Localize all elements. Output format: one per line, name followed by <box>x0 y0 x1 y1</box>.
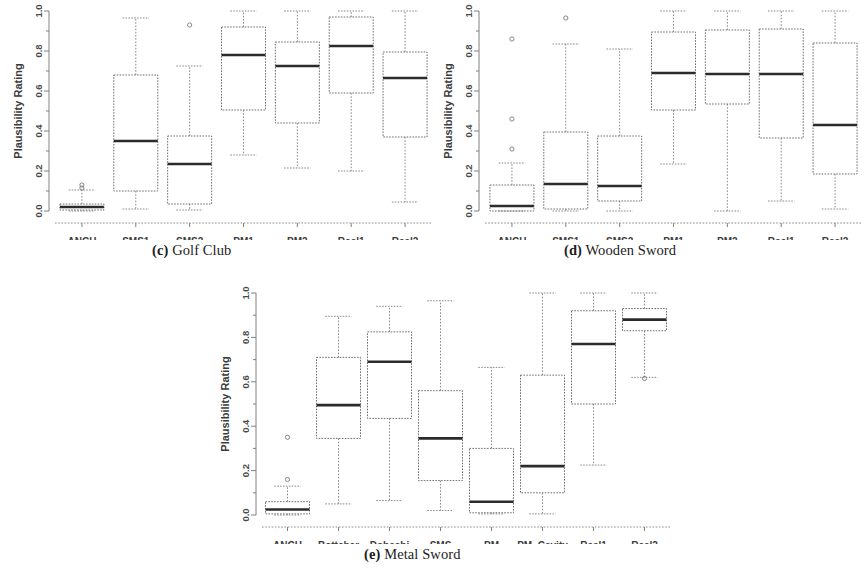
boxplot-group: Dobashi <box>368 306 412 544</box>
box-rect <box>813 43 857 174</box>
box-rect <box>419 391 463 481</box>
boxplot-group: PM2 <box>275 11 319 240</box>
panel-caption-metal-sword: (e) Metal Sword <box>364 546 461 563</box>
panel-metal-sword: 0.00.20.40.60.81.0Plausibility RatingANC… <box>200 282 700 574</box>
caption-text-e: Metal Sword <box>384 546 460 562</box>
box-rect <box>317 357 361 438</box>
x-axis-label: PM_Cavity <box>517 540 568 544</box>
caption-prefix-d: (d) <box>564 242 582 258</box>
boxplot-group: Real2 <box>383 11 427 240</box>
x-axis-label: SMS1 <box>122 236 150 240</box>
box-rect <box>572 311 616 404</box>
boxplot-group: PM <box>470 367 514 544</box>
boxplot-group: Real2 <box>813 11 857 240</box>
boxplot-group: SMS2 <box>598 49 642 240</box>
boxplot-group: Real1 <box>759 11 803 240</box>
x-axis-label: ANCH <box>67 236 96 240</box>
boxplot-figure: 0.00.20.40.60.81.0Plausibility RatingANC… <box>0 0 867 574</box>
x-axis-label: Dobashi <box>370 540 410 544</box>
box-rect <box>329 17 373 93</box>
boxplot-group: Real1 <box>329 11 373 240</box>
x-axis-label: Bottcher <box>318 540 359 544</box>
y-axis-title: Plausibility Rating <box>219 356 231 451</box>
y-tick-label: 0.8 <box>33 44 44 57</box>
y-tick-label: 0.8 <box>240 331 251 344</box>
outlier-point <box>510 117 514 121</box>
caption-text-c: Golf Club <box>172 242 231 258</box>
outlier-point <box>564 16 568 20</box>
box-rect <box>368 332 412 419</box>
box-rect <box>222 27 266 110</box>
boxplot-group: SMS2 <box>168 23 212 240</box>
x-axis-label: ANCH <box>497 236 526 240</box>
boxplot-group: Real2 <box>623 293 667 544</box>
x-axis-label: PM1 <box>663 236 684 240</box>
boxplot-group: Real1 <box>572 293 616 544</box>
plot-golf-club: 0.00.20.40.60.81.0Plausibility RatingANC… <box>0 0 437 240</box>
boxplot-group: Bottcher <box>317 316 361 544</box>
x-axis-label: PM <box>484 540 499 544</box>
box-rect <box>598 136 642 201</box>
box-rect <box>759 29 803 138</box>
panel-wooden-sword: 0.00.20.40.60.81.0Plausibility RatingANC… <box>430 0 867 268</box>
x-axis-label: Real2 <box>631 540 658 544</box>
boxplot-group: PM_Cavity <box>517 293 568 544</box>
x-axis-label: Real2 <box>392 236 419 240</box>
boxplot-group: SMS1 <box>544 16 588 240</box>
boxplot-group: PM2 <box>705 11 749 240</box>
y-tick-label: 0.4 <box>240 419 251 433</box>
panel-caption-wooden-sword: (d) Wooden Sword <box>564 242 676 259</box>
y-tick-label: 0.2 <box>240 464 251 477</box>
x-axis-label: Real1 <box>338 236 365 240</box>
y-tick-label: 0.4 <box>33 124 44 138</box>
boxplot-group: SMS <box>419 301 463 544</box>
box-rect <box>168 136 212 204</box>
caption-text-d: Wooden Sword <box>586 242 677 258</box>
y-tick-label: 1.0 <box>463 4 474 17</box>
y-tick-label: 1.0 <box>33 4 44 17</box>
box-rect <box>470 448 514 512</box>
boxplot-group: SMS1 <box>114 18 158 240</box>
boxplot-group: ANCH <box>60 183 104 240</box>
x-axis-label: PM2 <box>717 236 738 240</box>
box-rect <box>652 32 696 110</box>
y-tick-label: 0.8 <box>463 44 474 57</box>
x-axis-label: SMS1 <box>552 236 580 240</box>
caption-prefix-c: (c) <box>152 242 168 258</box>
box-rect <box>266 502 310 514</box>
outlier-point <box>80 183 84 187</box>
y-tick-label: 0.0 <box>463 204 474 217</box>
y-tick-label: 0.0 <box>33 204 44 217</box>
outlier-point <box>188 23 192 27</box>
panel-golf-club: 0.00.20.40.60.81.0Plausibility RatingANC… <box>0 0 437 268</box>
y-tick-label: 0.0 <box>240 508 251 521</box>
y-axis-title: Plausibility Rating <box>12 63 24 158</box>
box-rect <box>383 52 427 137</box>
y-tick-label: 0.6 <box>240 375 251 388</box>
x-axis-label: SMS2 <box>176 236 204 240</box>
x-axis-label: Real2 <box>822 236 849 240</box>
outlier-point <box>285 435 289 439</box>
y-tick-label: 0.4 <box>463 124 474 138</box>
x-axis-label: SMS2 <box>606 236 634 240</box>
x-axis-label: SMS <box>430 540 452 544</box>
box-rect <box>705 30 749 104</box>
box-rect <box>521 375 565 493</box>
x-axis-label: ANCH <box>273 540 302 544</box>
plot-wooden-sword: 0.00.20.40.60.81.0Plausibility RatingANC… <box>430 0 867 240</box>
caption-prefix-e: (e) <box>364 546 380 562</box>
outlier-point <box>510 147 514 151</box>
x-axis-label: PM2 <box>287 236 308 240</box>
box-rect <box>275 42 319 123</box>
outlier-point <box>285 477 289 481</box>
box-rect <box>114 75 158 191</box>
y-tick-label: 0.2 <box>33 164 44 177</box>
boxplot-group: ANCH <box>490 37 534 240</box>
outlier-point <box>510 37 514 41</box>
y-tick-label: 0.6 <box>463 84 474 97</box>
panel-caption-golf-club: (c) Golf Club <box>152 242 231 259</box>
box-rect <box>544 132 588 209</box>
x-axis-label: Real1 <box>768 236 795 240</box>
x-axis-label: Real1 <box>580 540 607 544</box>
y-tick-label: 0.6 <box>33 84 44 97</box>
